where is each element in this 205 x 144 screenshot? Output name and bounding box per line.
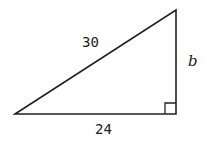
right-triangle (15, 10, 176, 114)
triangle-diagram: 30 b 24 (0, 0, 205, 144)
vertical-leg-label: b (188, 52, 198, 70)
right-angle-marker (165, 103, 176, 114)
base-label: 24 (95, 121, 112, 137)
hypotenuse-label: 30 (82, 34, 99, 50)
